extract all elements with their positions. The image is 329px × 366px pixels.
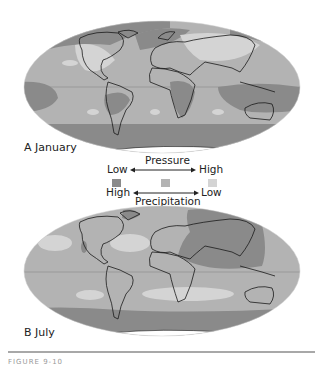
panel-label-july: B July	[24, 326, 55, 339]
panel-label-january: A January	[24, 141, 77, 154]
legend-pressure-title: Pressure	[145, 154, 190, 166]
legend-precip-low: Low	[201, 186, 222, 198]
legend-pressure-high: High	[199, 163, 223, 175]
july-pressure-map	[0, 203, 329, 339]
legend: Pressure Low High High Low Precipitation	[95, 153, 245, 203]
legend-precip-high: High	[106, 186, 130, 198]
swatch-medium	[161, 179, 170, 187]
figure-caption: FIGURE 9-10	[8, 358, 63, 366]
pressure-arrow-icon	[130, 166, 196, 174]
january-pressure-map	[0, 18, 329, 158]
caption-divider	[8, 351, 315, 353]
legend-pressure-low: Low	[107, 163, 128, 175]
